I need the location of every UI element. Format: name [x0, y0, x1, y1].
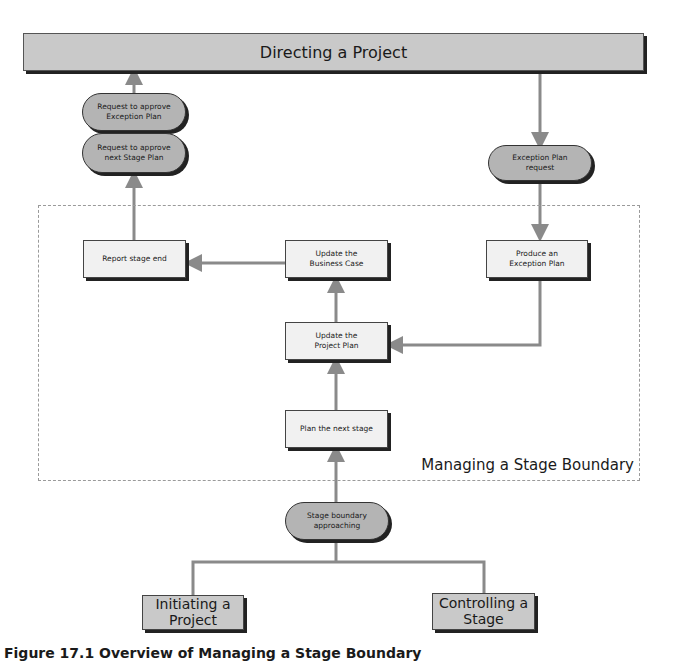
process-label-line: Project: [169, 612, 217, 628]
activity-update-project-plan: Update theProject Plan: [285, 322, 388, 360]
activity-label: Plan the next stage: [300, 424, 373, 434]
boundary-label: Managing a Stage Boundary: [421, 456, 634, 474]
activity-label: Report stage end: [102, 254, 167, 264]
process-label: Directing a Project: [260, 43, 407, 62]
process-label-line: Initiating a: [155, 596, 230, 612]
activity-produce-exception-plan: Produce anException Plan: [486, 240, 588, 278]
activity-label-line: Update the: [316, 249, 358, 258]
event-stage-boundary-approaching: Stage boundaryapproaching: [285, 502, 389, 540]
event-request-approve-exception-plan: Request to approveException Plan: [82, 93, 186, 131]
event-label-line: approaching: [314, 521, 361, 530]
activity-report-stage-end: Report stage end: [83, 240, 186, 278]
event-label-line: Request to approve: [97, 102, 170, 111]
event-request-approve-next-stage-plan: Request to approvenext Stage Plan: [82, 133, 186, 173]
activity-update-business-case: Update theBusiness Case: [285, 240, 388, 278]
event-label-line: Stage boundary: [307, 511, 367, 520]
process-label-line: Stage: [463, 611, 503, 627]
event-label-line: next Stage Plan: [104, 153, 163, 162]
activity-label-line: Produce an: [516, 249, 558, 258]
event-exception-plan-request: Exception Planrequest: [488, 145, 592, 181]
figure-caption: Figure 17.1 Overview of Managing a Stage…: [4, 645, 421, 661]
event-label-line: Exception Plan: [512, 153, 567, 162]
activity-label-line: Exception Plan: [509, 259, 564, 268]
process-label-line: Controlling a: [439, 595, 528, 611]
process-controlling-a-stage: Controlling aStage: [432, 593, 535, 630]
event-label-line: request: [526, 163, 555, 172]
process-initiating-a-project: Initiating aProject: [142, 595, 244, 630]
activity-label-line: Business Case: [310, 259, 364, 268]
activity-label-line: Update the: [316, 331, 358, 340]
process-directing-a-project: Directing a Project: [23, 33, 644, 71]
activity-label-line: Project Plan: [314, 341, 358, 350]
activity-plan-next-stage: Plan the next stage: [285, 410, 388, 448]
event-label-line: Request to approve: [97, 143, 170, 152]
event-label-line: Exception Plan: [106, 112, 161, 121]
